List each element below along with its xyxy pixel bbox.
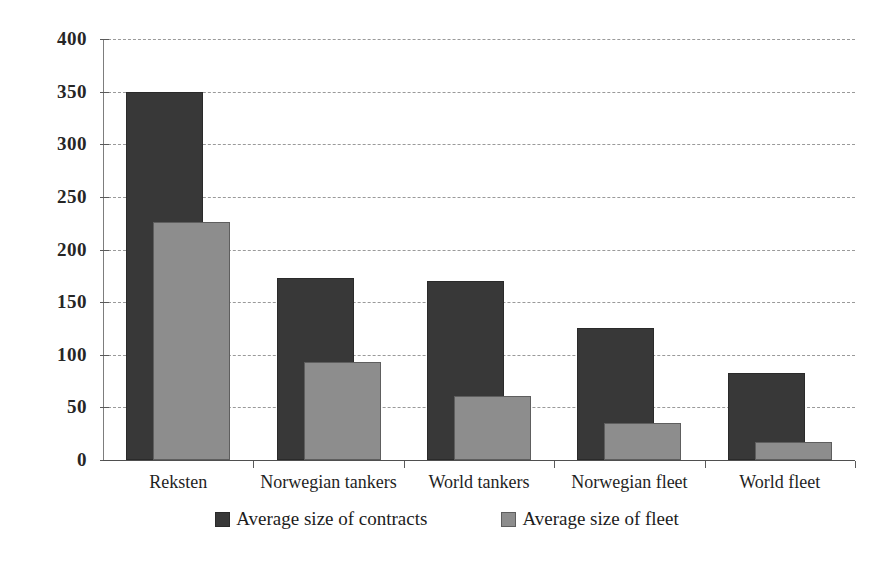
gridline: [103, 144, 855, 145]
bar-chart: 050100150200250300350400 RekstenNorwegia…: [0, 0, 894, 565]
bar-fleet: [604, 423, 681, 460]
x-axis-tick: [855, 461, 856, 468]
bar-fleet: [304, 362, 381, 460]
gridline: [103, 197, 855, 198]
y-axis-tick-label: 0: [77, 449, 87, 471]
chart-legend: Average size of contracts Average size o…: [0, 508, 894, 530]
y-axis-tick: [100, 39, 109, 40]
y-axis-tick: [100, 250, 109, 251]
y-axis-tick-label: 50: [67, 396, 87, 418]
x-axis-category-label: World tankers: [428, 472, 529, 493]
legend-label-contracts: Average size of contracts: [236, 508, 427, 530]
legend-swatch-dark-icon: [215, 512, 230, 527]
x-axis-tick: [404, 461, 405, 468]
bar-fleet: [153, 222, 230, 460]
gridline: [103, 39, 855, 40]
x-axis-category-label: Norwegian tankers: [260, 472, 396, 493]
legend-swatch-light-icon: [501, 512, 516, 527]
bar-fleet: [755, 442, 832, 460]
legend-label-fleet: Average size of fleet: [522, 508, 678, 530]
x-axis-tick: [705, 461, 706, 468]
y-axis-line: [103, 39, 104, 460]
x-axis-line: [103, 460, 855, 461]
y-axis-tick-label: 150: [57, 291, 87, 313]
x-axis-category-label: World fleet: [739, 472, 820, 493]
y-axis-tick: [100, 302, 109, 303]
bar-fleet: [454, 396, 531, 460]
y-axis-tick-label: 250: [57, 186, 87, 208]
y-axis-tick-label: 400: [57, 28, 87, 50]
x-axis-category-labels: RekstenNorwegian tankersWorld tankersNor…: [103, 470, 855, 504]
y-axis-labels: 050100150200250300350400: [0, 0, 95, 565]
y-axis-tick: [100, 355, 109, 356]
x-axis-category-label: Reksten: [149, 472, 207, 493]
x-axis-tick: [554, 461, 555, 468]
y-axis-tick-label: 350: [57, 81, 87, 103]
y-axis-tick-label: 300: [57, 133, 87, 155]
plot-area: [103, 39, 855, 460]
y-axis-tick-label: 200: [57, 239, 87, 261]
y-axis-tick-label: 100: [57, 344, 87, 366]
y-axis-tick: [100, 144, 109, 145]
x-axis-tick: [253, 461, 254, 468]
gridline: [103, 92, 855, 93]
x-axis-category-label: Norwegian fleet: [571, 472, 687, 493]
y-axis-tick: [100, 407, 109, 408]
legend-item-contracts: Average size of contracts: [215, 508, 427, 530]
y-axis-tick: [100, 92, 109, 93]
legend-item-fleet: Average size of fleet: [501, 508, 678, 530]
y-axis-tick: [100, 197, 109, 198]
